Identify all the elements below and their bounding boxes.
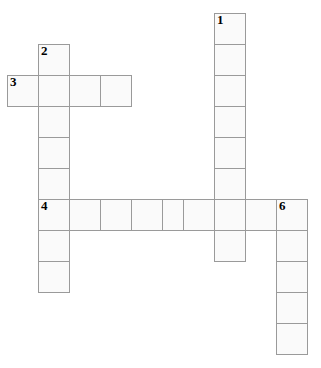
crossword-cell[interactable] bbox=[214, 230, 246, 262]
crossword-cell-numbered[interactable]: 4 bbox=[38, 199, 70, 231]
crossword-cell[interactable] bbox=[38, 137, 70, 169]
crossword-cell[interactable] bbox=[131, 199, 163, 231]
crossword-cell[interactable] bbox=[245, 199, 277, 231]
clue-number: 1 bbox=[217, 13, 224, 27]
crossword-cell[interactable] bbox=[276, 292, 308, 324]
crossword-cell[interactable] bbox=[38, 230, 70, 262]
crossword-cell[interactable] bbox=[69, 199, 101, 231]
clue-number: 2 bbox=[41, 44, 48, 58]
crossword-cell-numbered[interactable]: 1 bbox=[214, 13, 246, 45]
crossword-cell[interactable] bbox=[38, 106, 70, 138]
crossword-cell[interactable] bbox=[100, 199, 132, 231]
crossword-grid: 12436 bbox=[0, 0, 321, 368]
crossword-cell[interactable] bbox=[276, 323, 308, 355]
crossword-cell[interactable] bbox=[276, 230, 308, 262]
crossword-cell[interactable] bbox=[38, 75, 70, 107]
crossword-cell[interactable] bbox=[276, 261, 308, 293]
crossword-cell[interactable] bbox=[38, 168, 70, 200]
crossword-cell[interactable] bbox=[214, 106, 246, 138]
clue-number: 6 bbox=[279, 199, 286, 213]
crossword-cell[interactable] bbox=[214, 199, 246, 231]
crossword-cell[interactable] bbox=[214, 75, 246, 107]
crossword-cell[interactable] bbox=[69, 75, 101, 107]
crossword-cell[interactable] bbox=[214, 44, 246, 76]
crossword-cell-numbered[interactable]: 3 bbox=[7, 75, 39, 107]
crossword-cell[interactable] bbox=[214, 168, 246, 200]
crossword-cell[interactable] bbox=[100, 75, 132, 107]
crossword-cell-numbered[interactable]: 6 bbox=[276, 199, 308, 231]
clue-number: 3 bbox=[10, 75, 17, 89]
crossword-cell[interactable] bbox=[214, 137, 246, 169]
crossword-cell[interactable] bbox=[38, 261, 70, 293]
crossword-cell[interactable] bbox=[183, 199, 215, 231]
clue-number: 4 bbox=[41, 199, 48, 213]
crossword-cell-numbered[interactable]: 2 bbox=[38, 44, 70, 76]
